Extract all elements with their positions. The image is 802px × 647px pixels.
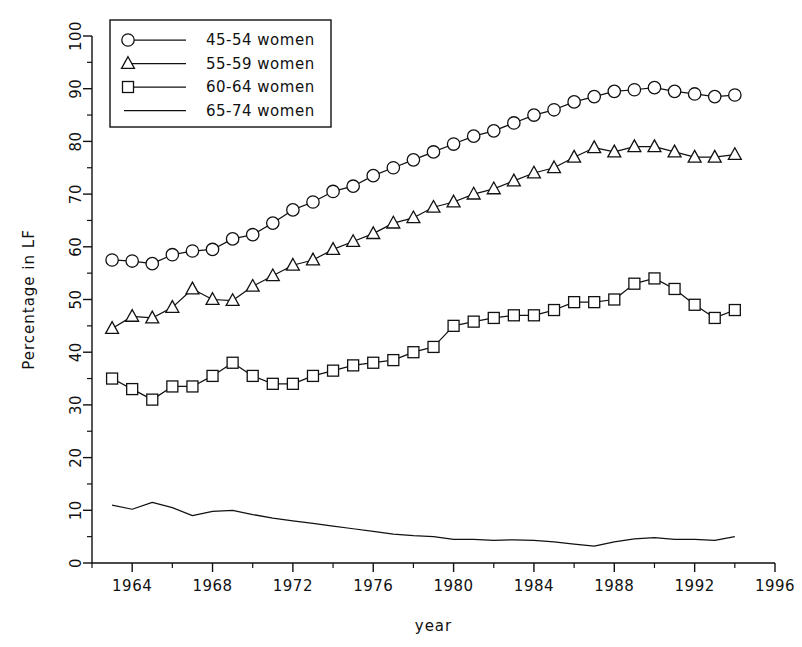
data-point-marker xyxy=(186,245,198,257)
data-point-marker xyxy=(247,370,258,381)
data-point-marker xyxy=(127,384,138,395)
data-point-marker xyxy=(186,282,199,294)
data-series-layer xyxy=(106,81,742,546)
labor-force-participation-line-chart: 45-54 women55-59 women60-64 women65-74 w… xyxy=(0,0,802,647)
x-axis-tick-label: 1972 xyxy=(273,577,313,595)
y-axis-tick-label: 30 xyxy=(67,395,85,415)
data-point-marker xyxy=(528,109,540,121)
y-axis-title: Percentage in LF xyxy=(20,229,38,370)
x-axis-tick-label: 1976 xyxy=(353,577,393,595)
data-point-marker xyxy=(508,117,520,129)
data-point-marker xyxy=(327,185,339,197)
data-point-marker xyxy=(327,243,340,255)
y-axis-tick-label: 10 xyxy=(67,500,85,520)
data-point-marker xyxy=(709,312,720,323)
data-point-marker xyxy=(709,90,721,102)
data-point-marker xyxy=(669,283,680,294)
data-point-marker xyxy=(408,347,419,358)
data-point-marker xyxy=(428,341,439,352)
data-point-marker xyxy=(589,297,600,308)
legend-sample-marker xyxy=(123,82,134,93)
data-point-marker xyxy=(287,204,299,216)
data-point-marker xyxy=(629,278,640,289)
data-point-marker xyxy=(608,85,620,97)
data-point-marker xyxy=(448,320,459,331)
data-point-marker xyxy=(206,293,219,305)
data-point-marker xyxy=(729,89,741,101)
data-point-marker xyxy=(206,243,218,255)
x-axis-tick-label: 1964 xyxy=(112,577,152,595)
data-point-marker xyxy=(166,301,179,313)
x-axis-title: year xyxy=(415,617,452,635)
data-point-marker xyxy=(628,84,640,96)
data-point-marker xyxy=(307,253,320,265)
y-axis-tick-label: 20 xyxy=(67,448,85,468)
series-2 xyxy=(106,140,742,334)
data-point-marker xyxy=(729,305,740,316)
y-axis-tick-label: 60 xyxy=(67,237,85,257)
data-point-marker xyxy=(348,360,359,371)
data-point-marker xyxy=(488,125,500,137)
series-line xyxy=(112,147,735,329)
data-point-marker xyxy=(347,180,359,192)
data-point-marker xyxy=(528,310,539,321)
data-point-marker xyxy=(126,255,138,267)
data-point-marker xyxy=(648,81,660,93)
data-point-marker xyxy=(266,269,279,281)
legend-entry-label: 55-59 women xyxy=(206,55,315,73)
data-point-marker xyxy=(106,322,119,334)
data-point-marker xyxy=(468,316,479,327)
data-point-marker xyxy=(407,154,419,166)
data-point-marker xyxy=(688,88,700,100)
legend-entry-label: 65-74 women xyxy=(206,102,315,120)
x-axis-tick-label: 1968 xyxy=(192,577,232,595)
data-point-marker xyxy=(287,378,298,389)
x-axis-tick-label: 1996 xyxy=(755,577,795,595)
data-point-marker xyxy=(508,310,519,321)
y-axis-tick-label: 80 xyxy=(67,131,85,151)
data-point-marker xyxy=(447,138,459,150)
data-point-marker xyxy=(568,96,580,108)
x-axis-tick-label: 1980 xyxy=(433,577,473,595)
x-axis-tick-label: 1988 xyxy=(594,577,634,595)
data-point-marker xyxy=(246,280,259,292)
series-4 xyxy=(112,502,735,546)
data-point-marker xyxy=(648,140,661,152)
data-point-marker xyxy=(588,141,601,153)
data-point-marker xyxy=(347,235,360,247)
data-point-marker xyxy=(226,294,239,306)
data-point-marker xyxy=(307,196,319,208)
data-point-marker xyxy=(548,104,560,116)
x-axis-tick-label: 1992 xyxy=(675,577,715,595)
data-point-marker xyxy=(367,169,379,181)
y-axis-tick-label: 40 xyxy=(67,342,85,362)
chart-legend: 45-54 women55-59 women60-64 women65-74 w… xyxy=(110,20,331,127)
data-point-marker xyxy=(207,370,218,381)
x-axis-tick-label: 1984 xyxy=(514,577,554,595)
y-axis-tick-label: 70 xyxy=(67,184,85,204)
y-axis-tick-label: 50 xyxy=(67,289,85,309)
data-point-marker xyxy=(247,228,259,240)
y-axis-tick-label: 100 xyxy=(67,21,85,51)
data-point-marker xyxy=(407,211,420,223)
data-point-marker xyxy=(488,312,499,323)
y-axis-tick-label: 0 xyxy=(67,558,85,568)
data-point-marker xyxy=(387,162,399,174)
data-point-marker xyxy=(126,310,139,322)
data-point-marker xyxy=(267,217,279,229)
data-point-marker xyxy=(166,249,178,261)
data-point-marker xyxy=(187,381,198,392)
data-point-marker xyxy=(487,182,500,194)
data-point-marker xyxy=(549,305,560,316)
data-point-marker xyxy=(609,294,620,305)
data-point-marker xyxy=(106,254,118,266)
data-point-marker xyxy=(628,140,641,152)
data-point-marker xyxy=(548,161,561,173)
chart-container: 45-54 women55-59 women60-64 women65-74 w… xyxy=(0,0,802,647)
data-point-marker xyxy=(328,365,339,376)
data-point-marker xyxy=(107,373,118,384)
data-point-marker xyxy=(267,378,278,389)
data-point-marker xyxy=(367,227,380,239)
data-point-marker xyxy=(728,148,741,160)
data-point-marker xyxy=(649,273,660,284)
